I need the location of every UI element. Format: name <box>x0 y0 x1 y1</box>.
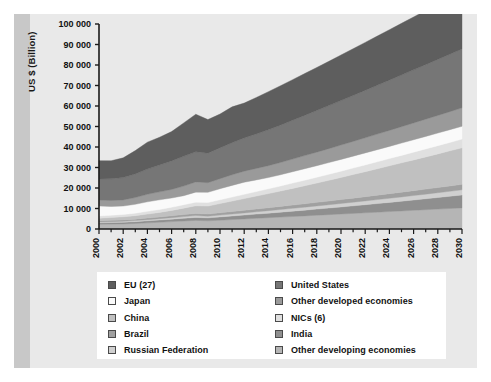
legend-swatch-other-developing-economies <box>275 346 283 354</box>
legend-item[interactable]: Japan <box>108 293 275 308</box>
svg-text:80 000: 80 000 <box>63 60 91 70</box>
svg-text:2018: 2018 <box>309 238 319 258</box>
legend-column-left: EU (27) Japan China Brazil Russian Feder… <box>108 277 275 359</box>
legend-swatch-united-states <box>275 281 283 289</box>
svg-text:30 000: 30 000 <box>63 163 91 173</box>
legend-column-right: United States Other developed economies … <box>275 277 445 359</box>
legend-label: Other developed economies <box>291 296 413 306</box>
svg-text:60 000: 60 000 <box>63 101 91 111</box>
stacked-area-chart: 010 00020 00030 00040 00050 00060 00070 … <box>30 14 477 264</box>
legend-swatch-japan <box>108 297 116 305</box>
svg-text:0: 0 <box>86 224 91 234</box>
svg-text:70 000: 70 000 <box>63 81 91 91</box>
svg-text:2002: 2002 <box>115 238 125 258</box>
svg-text:2026: 2026 <box>406 238 416 258</box>
svg-text:2016: 2016 <box>285 238 295 258</box>
svg-text:2004: 2004 <box>139 238 149 258</box>
legend-item[interactable]: China <box>108 310 275 325</box>
legend-label: Japan <box>124 296 150 306</box>
legend-item[interactable]: Other developed economies <box>275 293 445 308</box>
svg-text:2008: 2008 <box>188 238 198 258</box>
svg-text:10 000: 10 000 <box>63 204 91 214</box>
legend-label: Brazil <box>124 329 149 339</box>
svg-text:2030: 2030 <box>454 238 464 258</box>
legend-swatch-russian-federation <box>108 346 116 354</box>
svg-text:2012: 2012 <box>236 238 246 258</box>
legend-label: EU (27) <box>124 280 155 290</box>
svg-text:20 000: 20 000 <box>63 183 91 193</box>
legend-item[interactable]: United States <box>275 277 445 292</box>
chart-legend: EU (27) Japan China Brazil Russian Feder… <box>97 272 446 359</box>
legend-label: NICs (6) <box>291 313 325 323</box>
svg-text:50 000: 50 000 <box>63 122 91 132</box>
svg-text:100 000: 100 000 <box>58 19 91 29</box>
legend-label: China <box>124 313 149 323</box>
svg-text:2006: 2006 <box>164 238 174 258</box>
legend-swatch-china <box>108 314 116 322</box>
legend-label: Other developing economies <box>291 345 416 355</box>
legend-swatch-eu-27 <box>108 281 116 289</box>
plot-area: US $ (Billion) 010 00020 00030 00040 000… <box>30 14 477 264</box>
legend-item[interactable]: EU (27) <box>108 277 275 292</box>
legend-swatch-india <box>275 330 283 338</box>
legend-label: United States <box>291 280 349 290</box>
chart-screenshot: US $ (Billion) 010 00020 00030 00040 000… <box>0 0 491 382</box>
svg-text:2024: 2024 <box>381 238 391 258</box>
legend-swatch-brazil <box>108 330 116 338</box>
legend-item[interactable]: NICs (6) <box>275 310 445 325</box>
svg-text:2020: 2020 <box>333 238 343 258</box>
legend-label: India <box>291 329 312 339</box>
legend-item[interactable]: India <box>275 326 445 341</box>
svg-text:90 000: 90 000 <box>63 40 91 50</box>
svg-text:2010: 2010 <box>212 238 222 258</box>
legend-item[interactable]: Other developing economies <box>275 343 445 358</box>
legend-swatch-nics-6 <box>275 314 283 322</box>
svg-text:2022: 2022 <box>357 238 367 258</box>
legend-label: Russian Federation <box>124 345 208 355</box>
legend-item[interactable]: Brazil <box>108 326 275 341</box>
legend-swatch-other-developed-economies <box>275 297 283 305</box>
svg-text:2028: 2028 <box>430 238 440 258</box>
svg-text:40 000: 40 000 <box>63 142 91 152</box>
legend-item[interactable]: Russian Federation <box>108 343 275 358</box>
svg-text:2014: 2014 <box>260 238 270 258</box>
svg-text:2000: 2000 <box>91 238 101 258</box>
